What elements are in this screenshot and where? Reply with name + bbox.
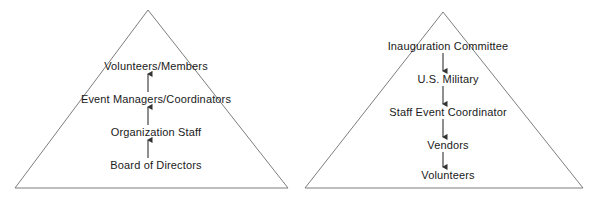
pyramid-level-label-volunteers: Volunteers [421,169,474,181]
pyramid-level-label-board-of-directors: Board of Directors [110,159,201,171]
pyramid-level-label-vendors: Vendors [427,139,468,151]
pyramid-level-label-event-managers-coordinators: Event Managers/Coordinators [81,93,231,105]
pyramid-diagram-pair: Volunteers/Members Event Managers/Coordi… [0,0,598,199]
pyramid-level-label-staff-event-coordinator: Staff Event Coordinator [389,106,507,118]
pyramid-level-label-us-military: U.S. Military [417,73,478,85]
pyramid-level-label-volunteers-members: Volunteers/Members [104,60,208,72]
pyramid-labels: Volunteers/Members Event Managers/Coordi… [0,0,598,199]
pyramid-level-label-inauguration-committee: Inauguration Committee [388,40,509,52]
diagram-canvas: Volunteers/Members Event Managers/Coordi… [0,0,598,199]
pyramid-level-label-organization-staff: Organization Staff [111,126,202,138]
